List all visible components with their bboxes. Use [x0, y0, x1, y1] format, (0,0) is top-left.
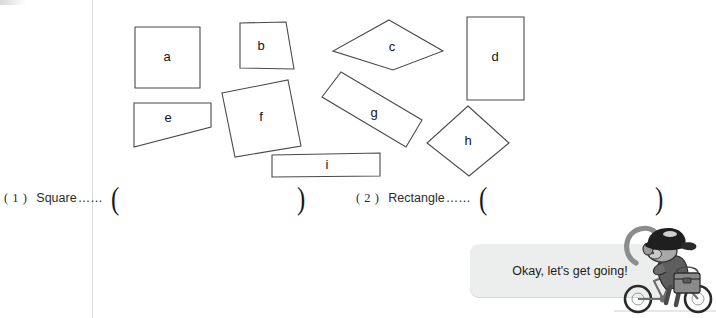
question-row-square: ( 1 ) Square …… ( ) [4, 181, 306, 215]
shape-c[interactable]: c [333, 20, 443, 70]
shape-e-outline [134, 103, 211, 147]
shape-i-label: i [326, 157, 329, 172]
open-paren-1: ( [111, 183, 119, 214]
answer-slot-square[interactable]: ( ) [110, 183, 307, 214]
question-2-number: ( 2 ) [356, 191, 379, 206]
shape-a-label: a [163, 49, 171, 64]
question-2-dots: …… [446, 191, 471, 205]
shape-g-label: g [370, 105, 377, 120]
mascot-monkey-on-bicycle [614, 221, 716, 318]
question-1-label: Square [36, 191, 76, 205]
question-row-rectangle: ( 2 ) Rectangle …… ( ) [356, 181, 664, 215]
answer-slot-rectangle[interactable]: ( ) [478, 183, 665, 214]
shape-b-outline [240, 22, 294, 69]
shape-i[interactable]: i [272, 153, 380, 177]
shape-b-label: b [257, 38, 264, 53]
open-paren-2: ( [479, 183, 487, 214]
shape-f[interactable]: f [222, 80, 301, 157]
close-paren-2: ) [655, 183, 663, 214]
shape-c-label: c [389, 39, 396, 54]
shapes-area: a b c d e [0, 0, 716, 180]
question-1-number: ( 1 ) [4, 191, 27, 206]
shape-d[interactable]: d [467, 17, 524, 100]
shape-b[interactable]: b [240, 22, 294, 69]
question-1-dots: …… [78, 191, 103, 205]
shape-f-label: f [259, 109, 263, 124]
shape-d-label: d [491, 49, 498, 64]
question-2-label: Rectangle [388, 191, 444, 205]
shape-e[interactable]: e [134, 103, 211, 147]
shape-e-label: e [164, 110, 171, 125]
shape-h-label: h [464, 133, 471, 148]
worksheet-page: a b c d e [0, 0, 716, 318]
shape-g[interactable]: g [322, 72, 422, 147]
close-paren-1: ) [297, 183, 305, 214]
shape-a[interactable]: a [135, 27, 200, 88]
shape-h[interactable]: h [427, 106, 509, 176]
